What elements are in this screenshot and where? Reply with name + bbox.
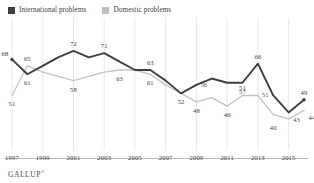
x-tick-2001: 2001 [67,154,81,162]
gallup-trademark: ® [41,169,45,174]
data-label-domestic-2016: 44 [309,114,314,121]
data-label-international-2006: 63 [147,59,154,66]
plot-area: 6861727163525657665143495165586361484651… [0,18,314,150]
x-tick-1997: 1997 [5,154,19,162]
legend-swatch-international-icon [8,7,15,14]
data-label-international-2001: 72 [70,39,77,46]
data-label-international-2014: 51 [262,91,269,98]
data-label-domestic-2006: 61 [147,79,154,86]
data-label-domestic-2014: 40 [270,123,277,130]
x-tick-2003: 2003 [97,154,111,162]
data-label-international-2008: 52 [178,98,185,105]
x-axis: 1997199920012003200520072009201120132015 [0,150,314,164]
x-tick-2007: 2007 [159,154,173,162]
series-endpoint-marker [10,58,13,61]
legend-item-domestic: Domestic problems [102,6,171,14]
data-label-domestic-2001: 58 [70,85,77,92]
data-label-domestic-2009: 48 [193,106,200,113]
x-tick-2009: 2009 [190,154,204,162]
gallup-brand-text: GALLUP [8,170,41,179]
x-tick-2015: 2015 [282,154,296,162]
data-label-domestic-2012: 51 [239,84,246,91]
x-tick-1999: 1999 [36,154,50,162]
series-line-international [12,51,304,112]
data-label-domestic-1998: 65 [24,54,31,61]
series-endpoint-marker [302,98,305,101]
data-label-international-1997: 68 [2,50,9,57]
legend-label-domestic: Domestic problems [113,6,171,14]
x-tick-2013: 2013 [251,154,265,162]
x-tick-2005: 2005 [128,154,142,162]
data-label-international-2010: 56 [200,80,207,87]
data-label-international-2003: 71 [101,42,108,49]
legend-label-international: International problems [19,6,86,14]
legend-item-international: International problems [8,6,86,14]
series-line-domestic [12,66,304,119]
data-label-international-2013: 66 [254,52,261,59]
chart-legend: International problems Domestic problems [8,4,171,16]
data-label-domestic-1997: 51 [9,100,16,107]
data-label-domestic-2004: 63 [116,75,123,82]
data-label-international-1998: 61 [24,79,31,86]
data-label-international-2015: 43 [293,116,300,123]
x-tick-2011: 2011 [220,154,234,162]
plot-svg [0,18,314,150]
legend-swatch-domestic-icon [102,7,109,14]
data-label-domestic-2011: 46 [224,111,231,118]
gallup-line-chart: International problems Domestic problems… [0,0,314,183]
data-label-international-2016: 49 [301,88,308,95]
gallup-brand: GALLUP® [8,167,45,179]
